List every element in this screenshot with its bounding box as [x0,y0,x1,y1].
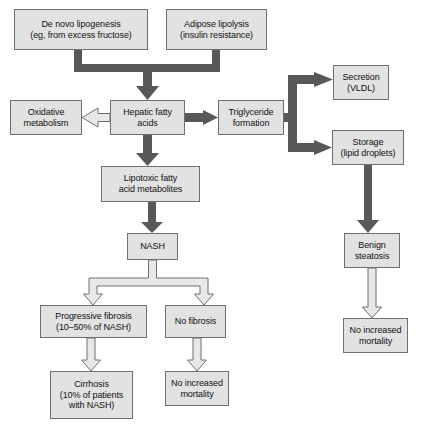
node-adipose-lipolysis: Adipose lipolysis (insulin resistance) [166,9,267,50]
node-line: De novo lipogenesis [30,19,131,30]
node-line: acid metabolites [119,184,182,195]
node-line: Triglyceride [229,107,274,118]
node-line: Progressive fibrosis [55,311,132,322]
node-line: acids [123,118,172,129]
node-line: mortality [350,336,402,347]
node-progressive-fibrosis: Progressive fibrosis (10–50% of NASH) [40,305,147,338]
node-cirrhosis: Cirrhosis (10% of patients with NASH) [50,371,133,419]
node-benign-steatosis: Benign steatosis [344,233,400,268]
node-line: (10–50% of NASH) [55,322,132,333]
node-lipotoxic-fatty-acid-metabolites: Lipotoxic fatty acid metabolites [101,166,200,202]
node-line: No fibrosis [175,316,216,327]
node-line: No increased [171,378,223,389]
node-line: Cirrhosis [60,379,123,390]
node-de-novo-lipogenesis: De novo lipogenesis (eg, from excess fru… [14,9,148,50]
node-line: (10% of patients [60,390,123,401]
edge-hepatic-to-lipotoxic [136,135,159,166]
node-line: Storage [341,137,396,148]
node-line: Adipose lipolysis [180,19,253,30]
node-line: mortality [171,389,223,400]
node-oxidative-metabolism: Oxidative metabolism [10,100,82,135]
edge-lipotoxic-to-nash [141,202,163,233]
node-line: (VLDL) [342,83,379,94]
node-line: (eg, from excess fructose) [30,30,131,41]
node-line: Lipotoxic fatty [119,173,182,184]
node-nash: NASH [127,233,178,260]
node-no-fibrosis: No fibrosis [165,305,226,338]
edge-triglyceride-to-storage [288,113,332,155]
edge-nash-to-branches [84,260,214,305]
node-line: Hepatic fatty [123,107,172,118]
node-hepatic-fatty-acids: Hepatic fatty acids [110,100,185,135]
node-line: steatosis [355,251,390,262]
node-line: formation [229,118,274,129]
node-no-increased-mortality-right: No increased mortality [343,318,408,353]
node-line: No increased [350,325,402,336]
flowchart-canvas: De novo lipogenesis (eg, from excess fru… [0,0,423,427]
edge-hepatic-to-triglyceride [185,110,218,125]
node-line: Secretion [342,72,379,83]
edge-lipogenesis-to-hepatic [74,50,82,64]
node-line: NASH [140,241,165,252]
node-storage-lipid-droplets: Storage (lipid droplets) [332,130,404,165]
edge-hepatic-to-oxidative [82,108,110,127]
node-line: metabolism [23,118,68,129]
node-no-increased-mortality-center: No increased mortality [165,371,229,406]
edge-lipolysis-to-hepatic [212,50,220,64]
edge-progressive-to-cirrhosis [82,338,101,371]
node-line: (lipid droplets) [341,148,396,159]
node-line: Benign [355,240,390,251]
node-secretion-vldl: Secretion (VLDL) [333,65,389,100]
node-line: (insulin resistance) [180,30,253,41]
node-line: with NASH) [60,400,123,411]
node-triglyceride-formation: Triglyceride formation [218,100,284,135]
edge-no-fibrosis-to-mortality [188,338,207,371]
edge-storage-to-benign [357,165,379,233]
node-line: Oxidative [23,107,68,118]
edge-merge-to-hepatic [74,64,220,100]
edge-benign-to-mortality [363,268,382,318]
